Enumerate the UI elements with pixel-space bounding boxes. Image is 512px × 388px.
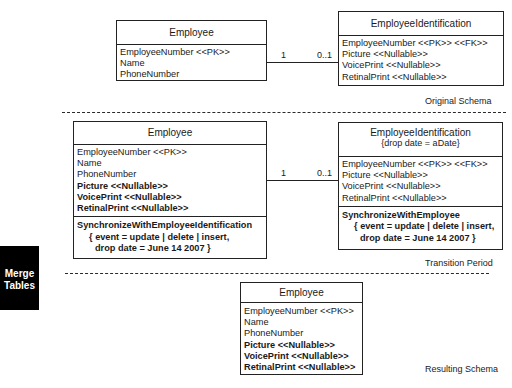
attribute: RetinalPrint <<Nullable>> — [342, 193, 499, 204]
class-attributes: EmployeeNumber <<PK>> <<FK>> Picture <<N… — [339, 157, 502, 206]
attribute: EmployeeNumber <<PK>> — [77, 147, 263, 158]
operation-params: drop date = June 14 2007 } — [77, 243, 263, 254]
right-multiplicity: 0..1 — [317, 168, 332, 178]
operation-params: { event = update | delete | insert, — [342, 221, 499, 232]
operation-name: SynchronizeWithEmployee — [342, 210, 499, 221]
class-title: Employee — [241, 283, 362, 303]
left-multiplicity: 1 — [281, 50, 286, 60]
attribute: VoicePrint <<Nullable>> — [342, 60, 500, 71]
original-identification-class: EmployeeIdentification EmployeeNumber <<… — [338, 11, 504, 86]
new-attribute: VoicePrint <<Nullable>> — [77, 192, 263, 203]
transition-period-label: Transition Period — [425, 258, 493, 268]
original-employee-class: Employee EmployeeNumber <<PK>> Name Phon… — [116, 20, 267, 81]
right-multiplicity: 0..1 — [317, 50, 332, 60]
class-operations: SynchronizeWithEmployeeIdentification { … — [74, 216, 266, 256]
new-attribute: Picture <<Nullable>> — [77, 181, 263, 192]
class-operations: SynchronizeWithEmployee { event = update… — [339, 206, 502, 246]
section-divider — [65, 273, 489, 274]
original-association-line — [267, 62, 339, 63]
transition-association-line — [267, 180, 339, 181]
class-title-block: EmployeeIdentification {drop date = aDat… — [339, 123, 502, 157]
operation-params: drop date = June 14 2007 } — [342, 233, 499, 244]
class-attributes: EmployeeNumber <<PK>> Name PhoneNumber P… — [241, 303, 362, 375]
left-multiplicity: 1 — [281, 168, 286, 178]
transition-identification-class: EmployeeIdentification {drop date = aDat… — [338, 122, 503, 250]
class-constraint: {drop date = aDate} — [339, 138, 502, 149]
original-schema-label: Original Schema — [425, 96, 492, 106]
attribute: VoicePrint <<Nullable>> — [342, 181, 499, 192]
class-title: EmployeeIdentification — [339, 127, 502, 138]
attribute: EmployeeNumber <<PK>> — [244, 306, 359, 317]
operation-name: SynchronizeWithEmployeeIdentification — [77, 220, 263, 231]
attribute: Picture <<Nullable>> — [244, 340, 359, 351]
attribute: EmployeeNumber <<PK>> <<FK>> — [342, 38, 500, 49]
merge-tables-tag: Merge Tables — [0, 246, 39, 310]
class-attributes: EmployeeNumber <<PK>> <<FK>> Picture <<N… — [339, 36, 503, 85]
class-attributes: EmployeeNumber <<PK>> Name PhoneNumber P… — [74, 145, 266, 216]
attribute: Name — [244, 317, 359, 328]
attribute: EmployeeNumber <<PK>> — [120, 47, 263, 58]
attribute: PhoneNumber — [77, 169, 263, 180]
attribute: Picture <<Nullable>> — [342, 49, 500, 60]
new-attribute: RetinalPrint <<Nullable>> — [77, 203, 263, 214]
attribute: RetinalPrint <<Nullable>> — [244, 362, 359, 373]
tag-line: Tables — [0, 280, 39, 292]
class-title: Employee — [117, 21, 266, 45]
attribute: Picture <<Nullable>> — [342, 170, 499, 181]
operation-params: { event = update | delete | insert, — [77, 232, 263, 243]
class-title: EmployeeIdentification — [339, 12, 503, 36]
attribute: PhoneNumber — [244, 328, 359, 339]
attribute: PhoneNumber — [120, 69, 263, 80]
resulting-schema-label: Resulting Schema — [425, 364, 498, 374]
class-title: Employee — [74, 122, 266, 145]
tag-line: Merge — [0, 268, 39, 280]
class-attributes: EmployeeNumber <<PK>> Name PhoneNumber — [117, 45, 266, 83]
resulting-employee-class: Employee EmployeeNumber <<PK>> Name Phon… — [240, 282, 363, 375]
attribute: Name — [77, 158, 263, 169]
attribute: EmployeeNumber <<PK>> <<FK>> — [342, 159, 499, 170]
transition-employee-class: Employee EmployeeNumber <<PK>> Name Phon… — [73, 121, 267, 259]
section-divider — [62, 112, 506, 113]
attribute: VoicePrint <<Nullable>> — [244, 351, 359, 362]
attribute: Name — [120, 58, 263, 69]
attribute: RetinalPrint <<Nullable>> — [342, 72, 500, 83]
